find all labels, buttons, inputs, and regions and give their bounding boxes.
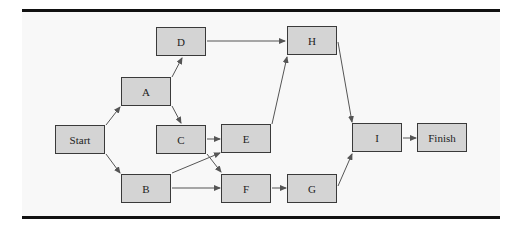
node-i: I: [352, 123, 402, 152]
node-a: A: [121, 77, 171, 106]
node-h: H: [287, 26, 337, 55]
node-e: E: [221, 124, 271, 153]
node-label: B: [142, 183, 149, 195]
node-start: Start: [55, 125, 105, 154]
node-g: G: [287, 174, 337, 203]
node-label: I: [375, 132, 379, 144]
edge-a-d: [172, 58, 182, 77]
node-label: D: [177, 36, 185, 48]
node-b: B: [121, 174, 171, 203]
node-label: H: [308, 35, 316, 47]
node-f: F: [221, 174, 271, 203]
edge-a-c: [172, 106, 181, 123]
node-label: E: [243, 133, 250, 145]
node-label: C: [177, 134, 184, 146]
node-finish: Finish: [417, 123, 467, 152]
edge-h-i: [338, 42, 352, 122]
edge-start-a: [106, 107, 120, 125]
edge-b-e: [172, 153, 220, 173]
node-c: C: [156, 125, 206, 154]
node-d: D: [156, 27, 206, 56]
edge-g-i: [338, 154, 352, 186]
node-label: A: [142, 86, 150, 98]
edge-c-f: [207, 154, 221, 172]
node-label: G: [308, 183, 316, 195]
edge-e-h: [272, 57, 287, 124]
node-label: Start: [70, 134, 91, 146]
node-label: F: [243, 183, 249, 195]
edge-start-b: [106, 154, 120, 173]
node-label: Finish: [428, 132, 456, 144]
